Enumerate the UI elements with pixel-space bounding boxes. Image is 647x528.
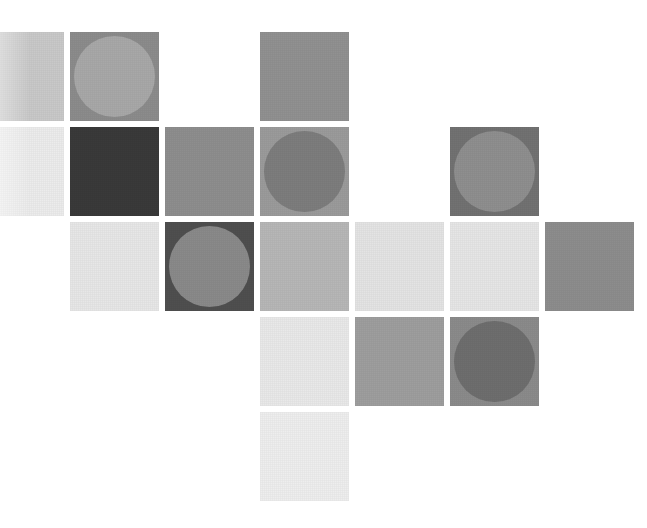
- tile-r3c6-texture: [450, 222, 539, 311]
- tile-r4c6-circle: [454, 321, 535, 402]
- mosaic-canvas: [0, 0, 647, 528]
- tile-r3c2: [70, 222, 159, 311]
- tile-r1c1-texture: [0, 32, 64, 121]
- tile-r3c5: [355, 222, 444, 311]
- tile-r2c2: [70, 127, 159, 216]
- tile-r3c4: [260, 222, 349, 311]
- tile-r4c6: [450, 317, 539, 406]
- tile-r5c4-texture: [260, 412, 349, 501]
- tile-r4c5: [355, 317, 444, 406]
- tile-r1c4-texture: [260, 32, 349, 121]
- tile-r4c4: [260, 317, 349, 406]
- tile-r3c2-texture: [70, 222, 159, 311]
- tile-r2c1: [0, 127, 64, 216]
- tile-r4c5-texture: [355, 317, 444, 406]
- tile-r3c5-texture: [355, 222, 444, 311]
- tile-r2c4: [260, 127, 349, 216]
- tile-r3c7: [545, 222, 634, 311]
- tile-r2c4-circle: [264, 131, 345, 212]
- tile-r3c3-circle: [169, 226, 250, 307]
- tile-r2c1-texture: [0, 127, 64, 216]
- tile-r2c3-texture: [165, 127, 254, 216]
- tile-r2c3: [165, 127, 254, 216]
- tile-r2c6: [450, 127, 539, 216]
- tile-r1c4: [260, 32, 349, 121]
- tile-r1c2: [70, 32, 159, 121]
- tile-r4c4-texture: [260, 317, 349, 406]
- tile-r5c4: [260, 412, 349, 501]
- tile-r1c1: [0, 32, 64, 121]
- tile-r3c7-texture: [545, 222, 634, 311]
- tile-r3c4-texture: [260, 222, 349, 311]
- tile-r1c2-circle: [74, 36, 155, 117]
- tile-r3c6: [450, 222, 539, 311]
- tile-r2c6-circle: [454, 131, 535, 212]
- tile-r3c3: [165, 222, 254, 311]
- tile-r2c2-texture: [70, 127, 159, 216]
